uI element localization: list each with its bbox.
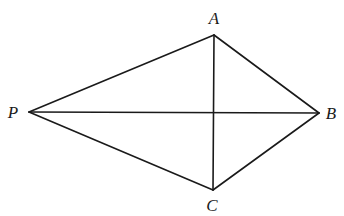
segment-ab — [214, 35, 319, 113]
label-p: P — [7, 103, 18, 122]
label-c: C — [206, 196, 218, 215]
label-a: A — [208, 9, 220, 28]
segment-pb — [29, 112, 319, 113]
segment-ac — [213, 35, 214, 190]
segment-pa — [29, 35, 214, 112]
geometry-diagram: A P B C — [0, 0, 344, 216]
segments — [29, 35, 319, 190]
label-b: B — [326, 104, 337, 123]
segment-bc — [213, 113, 319, 190]
segment-cp — [29, 112, 213, 190]
